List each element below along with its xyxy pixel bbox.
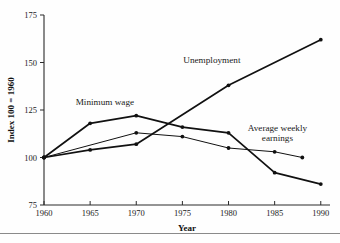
axis-group: 75100125150175 1960196519701975198019851…: [24, 10, 330, 218]
y-tick-label: 175: [24, 10, 37, 20]
series-label-minimum-wage: Minimum wage: [76, 97, 134, 107]
x-tick-label: 1960: [36, 208, 53, 218]
data-point-marker: [227, 83, 231, 87]
data-point-marker: [227, 131, 231, 135]
y-tick-label: 125: [24, 105, 37, 115]
x-tick-label: 1965: [82, 208, 99, 218]
y-tick-label: 150: [24, 58, 37, 68]
data-point-marker: [273, 150, 277, 154]
data-point-marker: [180, 135, 184, 139]
data-point-marker: [180, 125, 184, 129]
x-tick-label: 1990: [312, 208, 329, 218]
x-axis-title: Year: [178, 223, 196, 233]
y-axis-ticks: 75100125150175: [24, 10, 44, 210]
data-point-marker: [300, 156, 304, 160]
data-point-marker: [88, 148, 92, 152]
data-point-marker: [273, 171, 277, 175]
y-tick-label: 100: [24, 153, 37, 163]
line-chart-canvas: 75100125150175 1960196519701975198019851…: [0, 0, 340, 243]
y-axis-title: Index 100 = 1960: [6, 77, 16, 143]
data-point-marker: [134, 142, 138, 146]
x-axis-ticks: 1960196519701975198019851990: [36, 201, 330, 218]
series-label-unemployment: Unemployment: [183, 55, 241, 65]
series-label-average-weekly-earnings-line1: Average weekly: [248, 123, 308, 133]
data-point-marker: [88, 121, 92, 125]
chart-figure: 75100125150175 1960196519701975198019851…: [0, 0, 340, 243]
series-label-average-weekly-earnings-line2: earnings: [262, 133, 294, 143]
data-point-marker: [319, 38, 323, 42]
data-point-marker: [134, 114, 138, 118]
x-tick-label: 1980: [220, 208, 237, 218]
x-tick-label: 1975: [174, 208, 191, 218]
data-point-marker: [42, 156, 46, 160]
data-point-marker: [319, 182, 323, 186]
series-annotations-group: UnemploymentMinimum wageAverage weeklyea…: [76, 55, 308, 142]
data-point-marker: [227, 146, 231, 150]
x-tick-label: 1970: [128, 208, 145, 218]
data-point-marker: [134, 131, 138, 135]
x-tick-label: 1985: [266, 208, 283, 218]
